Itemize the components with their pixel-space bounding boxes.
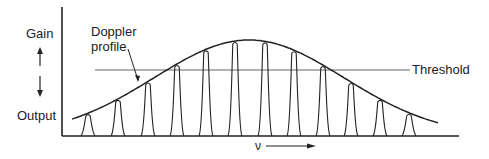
frequency-arrow-icon — [307, 144, 316, 149]
mode-peak — [199, 51, 213, 136]
mode-peak — [373, 100, 387, 136]
mode-peak — [228, 43, 242, 136]
gain-label: Gain — [26, 27, 53, 41]
doppler-profile-label-line1: Doppler — [91, 25, 137, 39]
mode-peak — [402, 114, 416, 136]
mode-peak — [141, 83, 155, 136]
mode-peak — [258, 43, 272, 136]
diagram-canvas — [0, 0, 489, 159]
mode-peak — [81, 115, 95, 136]
mode-peak — [111, 100, 125, 136]
laser-gain-diagram: Gain Output Doppler profile Threshold ν — [0, 0, 489, 159]
profile-pointer-arrowhead — [135, 75, 140, 82]
doppler-profile-label-line2: profile — [91, 40, 126, 54]
longitudinal-modes — [81, 43, 416, 136]
mode-peak — [344, 84, 358, 136]
gain-arrow-up-icon — [37, 47, 43, 54]
output-arrow-down-icon — [37, 90, 43, 97]
mode-peak — [316, 67, 330, 136]
mode-peak — [170, 65, 184, 136]
threshold-label: Threshold — [412, 63, 470, 77]
mode-peak — [287, 52, 301, 136]
frequency-nu-label: ν — [255, 139, 261, 153]
output-label: Output — [17, 109, 56, 123]
